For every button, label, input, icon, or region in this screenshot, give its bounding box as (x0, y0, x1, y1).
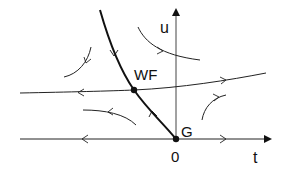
trajectory-upper-right (138, 27, 200, 60)
t-axis-label: t (253, 149, 258, 166)
wf-label: WF (134, 66, 157, 83)
trajectory-lower-left (83, 110, 136, 125)
origin-label: 0 (171, 148, 179, 165)
phase-portrait-diagram: WF G 0 t u (0, 0, 287, 172)
trajectory-lower-left-arrow-icon (108, 108, 113, 115)
wf-trajectory-left-arrow-icon (78, 89, 84, 96)
trajectory-lower-right (202, 95, 226, 120)
u-axis-label: u (160, 19, 169, 36)
g-label: G (181, 123, 193, 140)
wf-point (131, 87, 137, 93)
g-point (173, 136, 179, 142)
trajectory-upper-right-arrow-icon (157, 47, 163, 54)
